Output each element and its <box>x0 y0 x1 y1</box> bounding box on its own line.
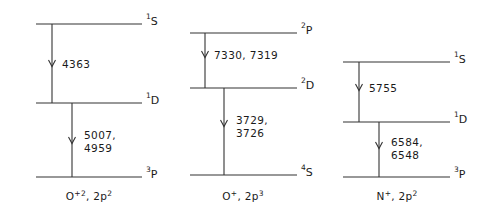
level-label-3p: 3P <box>146 165 158 181</box>
level-label-1s: 1S <box>146 12 158 28</box>
energy-level-diagram: 1S 1D 3P 4363 5007,4959 O+2, 2p2 2P 2D 4… <box>0 0 494 218</box>
level-label-1s-n: 1S <box>454 50 466 66</box>
level-label-4s: 4S <box>301 163 313 179</box>
wavelength-label-5755: 5755 <box>369 82 397 94</box>
transition-1s-1d-n: 5755 <box>356 62 398 122</box>
transition-1s-1d: 4363 <box>49 24 91 103</box>
level-label-3p-n: 3P <box>454 165 466 181</box>
level-label-2d: 2D <box>301 76 314 92</box>
transition-1d-3p: 5007,4959 <box>69 103 117 177</box>
wavelength-label-7330-7319: 7330, 7319 <box>214 49 278 61</box>
panel-caption-nplus: N+, 2p2 <box>376 189 417 202</box>
panel-o2plus: 1S 1D 3P 4363 5007,4959 O+2, 2p2 <box>36 12 159 202</box>
wavelength-label-5007-4959: 5007,4959 <box>84 129 116 154</box>
transition-2d-4s: 3729,3726 <box>221 88 269 175</box>
panel-oplus: 2P 2D 4S 7330, 7319 3729,3726 O+, 2p3 <box>190 21 314 202</box>
panel-caption-oplus: O+, 2p3 <box>222 189 263 202</box>
level-label-2p: 2P <box>301 21 313 37</box>
transition-2p-2d: 7330, 7319 <box>202 33 279 88</box>
wavelength-label-6584-6548: 6584,6548 <box>391 136 423 161</box>
wavelength-label-3729-3726: 3729,3726 <box>236 114 268 139</box>
wavelength-label-4363: 4363 <box>62 58 90 70</box>
panel-caption-o2plus: O+2, 2p2 <box>66 189 113 202</box>
transition-1d-3p-n: 6584,6548 <box>376 122 424 177</box>
level-label-1d-n: 1D <box>454 110 467 126</box>
level-label-1d: 1D <box>146 91 159 107</box>
panel-nplus: 1S 1D 3P 5755 6584,6548 N+, 2p2 <box>343 50 467 202</box>
